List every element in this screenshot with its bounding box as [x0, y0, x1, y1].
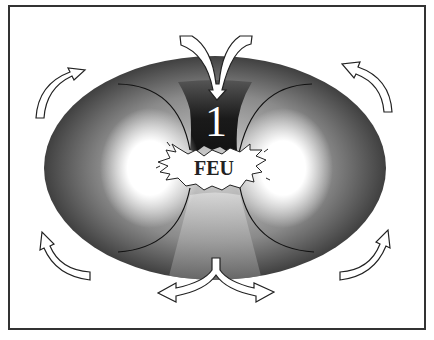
bottom-left-arrow-icon	[40, 232, 90, 280]
torus-diagram: FEU 1	[0, 0, 434, 340]
feu-label: FEU	[194, 157, 234, 179]
number-label: 1	[205, 97, 227, 146]
